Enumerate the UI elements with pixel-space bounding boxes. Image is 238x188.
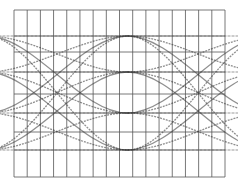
- signal-traces: [0, 36, 238, 150]
- grid: [14, 10, 225, 177]
- eye-diagram: [0, 0, 238, 188]
